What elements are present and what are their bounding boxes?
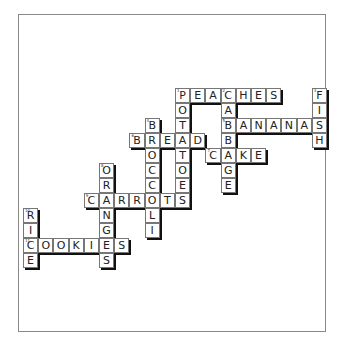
cell-letter: R xyxy=(100,179,113,192)
grid-cell[interactable]: 6B xyxy=(129,133,144,148)
grid-cell[interactable]: C xyxy=(145,178,160,193)
grid-cell[interactable]: 7C xyxy=(205,148,220,163)
cell-letter: E xyxy=(24,254,37,267)
cell-letter: E xyxy=(252,89,265,102)
grid-cell[interactable]: S xyxy=(312,118,327,133)
grid-cell[interactable]: O xyxy=(145,148,160,163)
cell-letter: N xyxy=(252,119,265,132)
grid-cell[interactable]: 8O xyxy=(99,163,114,178)
grid-cell[interactable]: T xyxy=(160,193,175,208)
cell-letter: G xyxy=(222,164,235,177)
cell-letter: R xyxy=(146,134,159,147)
grid-cell[interactable]: I xyxy=(84,238,99,253)
grid-cell[interactable]: I xyxy=(145,223,160,238)
cell-letter: K xyxy=(70,239,83,252)
grid-cell[interactable]: H xyxy=(312,133,327,148)
grid-cell[interactable]: E xyxy=(251,148,266,163)
grid-cell[interactable]: S xyxy=(175,193,190,208)
grid-cell[interactable]: 1P xyxy=(175,88,190,103)
grid-cell[interactable]: A xyxy=(221,103,236,118)
grid-cell[interactable]: L xyxy=(145,208,160,223)
cell-letter: C xyxy=(146,164,159,177)
cell-letter: A xyxy=(176,134,189,147)
cell-letter: O xyxy=(176,164,189,177)
grid-cell[interactable]: O xyxy=(53,238,68,253)
cell-letter: O xyxy=(176,104,189,117)
grid-cell[interactable]: R xyxy=(129,193,144,208)
grid-cell[interactable]: 10R xyxy=(23,208,38,223)
grid-cell[interactable]: A xyxy=(221,148,236,163)
clue-number: 4 xyxy=(147,118,150,123)
cell-letter: E xyxy=(222,179,235,192)
cell-letter: O xyxy=(39,239,52,252)
cell-letter: S xyxy=(100,254,113,267)
cell-letter: O xyxy=(146,149,159,162)
cell-letter: S xyxy=(267,89,280,102)
cell-letter: I xyxy=(146,224,159,237)
grid-cell[interactable]: N xyxy=(281,118,296,133)
grid-cell[interactable]: S xyxy=(266,88,281,103)
clue-number: 3 xyxy=(314,88,317,93)
grid-cell[interactable]: S xyxy=(114,238,129,253)
grid-cell[interactable]: E xyxy=(221,178,236,193)
grid-cell[interactable]: A xyxy=(297,118,312,133)
grid-cell[interactable]: N xyxy=(251,118,266,133)
grid-cell[interactable]: O xyxy=(38,238,53,253)
grid-cell[interactable]: 9C xyxy=(84,193,99,208)
grid-cell[interactable]: N xyxy=(99,208,114,223)
grid-cell[interactable]: S xyxy=(99,253,114,268)
grid-cell[interactable]: 5B xyxy=(221,118,236,133)
grid-cell[interactable]: E xyxy=(190,88,205,103)
grid-cell[interactable]: O xyxy=(145,193,160,208)
grid-cell[interactable]: D xyxy=(190,133,205,148)
grid-cell[interactable]: G xyxy=(99,223,114,238)
grid-cell[interactable]: A xyxy=(266,118,281,133)
cell-letter: K xyxy=(237,149,250,162)
grid-cell[interactable]: R xyxy=(114,193,129,208)
grid-cell[interactable]: 3F xyxy=(312,88,327,103)
grid-cell[interactable]: K xyxy=(236,148,251,163)
clue-number: 8 xyxy=(101,163,104,168)
cell-letter: T xyxy=(176,149,189,162)
clue-number: 10 xyxy=(25,208,30,213)
cell-letter: A xyxy=(206,89,219,102)
cell-letter: I xyxy=(24,224,37,237)
grid-cell[interactable]: I xyxy=(312,103,327,118)
grid-cell[interactable]: C xyxy=(145,163,160,178)
grid-cell[interactable]: A xyxy=(175,133,190,148)
grid-cell[interactable]: T xyxy=(175,148,190,163)
cell-letter: S xyxy=(176,194,189,207)
grid-cell[interactable]: E xyxy=(175,178,190,193)
cell-letter: N xyxy=(100,209,113,222)
grid-cell[interactable]: T xyxy=(175,118,190,133)
cell-letter: R xyxy=(115,194,128,207)
grid-cell[interactable]: G xyxy=(221,163,236,178)
grid-cell[interactable]: I xyxy=(23,223,38,238)
grid-cell[interactable]: 4B xyxy=(145,118,160,133)
grid-cell[interactable]: B xyxy=(221,133,236,148)
grid-cell[interactable]: E xyxy=(251,88,266,103)
grid-cell[interactable]: H xyxy=(236,88,251,103)
grid-cell[interactable]: O xyxy=(175,163,190,178)
grid-cell[interactable]: 11C xyxy=(23,238,38,253)
grid-cell[interactable]: 2C xyxy=(221,88,236,103)
grid-cell[interactable]: A xyxy=(99,193,114,208)
grid-cell[interactable]: R xyxy=(145,133,160,148)
cell-letter: H xyxy=(237,89,250,102)
grid-cell[interactable]: A xyxy=(236,118,251,133)
grid-cell[interactable]: E xyxy=(23,253,38,268)
grid-cell[interactable]: E xyxy=(160,133,175,148)
grid-cell[interactable]: O xyxy=(175,103,190,118)
clue-number: 5 xyxy=(223,118,226,123)
clue-number: 1 xyxy=(177,88,180,93)
cell-letter: A xyxy=(237,119,250,132)
cell-letter: A xyxy=(222,104,235,117)
grid-cell[interactable]: A xyxy=(205,88,220,103)
cell-letter: R xyxy=(130,194,143,207)
cell-letter: E xyxy=(100,239,113,252)
clue-number: 11 xyxy=(25,238,30,243)
grid-cell[interactable]: R xyxy=(99,178,114,193)
grid-cell[interactable]: K xyxy=(69,238,84,253)
cell-letter: N xyxy=(282,119,295,132)
grid-cell[interactable]: E xyxy=(99,238,114,253)
